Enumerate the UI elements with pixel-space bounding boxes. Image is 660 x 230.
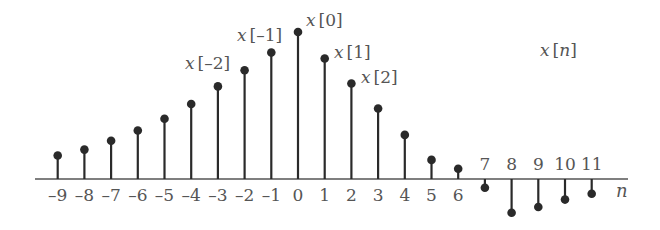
stem-sample	[214, 82, 223, 179]
stem-dot-icon	[53, 151, 62, 160]
tick-label: –4	[182, 185, 201, 205]
tick-label: 10	[554, 154, 576, 174]
stem-dot-icon	[561, 195, 570, 204]
stem-sample	[481, 179, 490, 192]
stem-sample	[320, 54, 329, 179]
sample-annotation: x[2]	[361, 67, 398, 87]
stem-plot: –9–8–7–6–5–4–3–2–101234567891011 x[–2]x[…	[0, 0, 660, 230]
stem-sample	[561, 179, 570, 204]
stem-sample	[107, 136, 116, 179]
tick-label: 0	[293, 185, 304, 205]
stem-sample	[294, 28, 303, 179]
sample-annotation: x[0]	[306, 10, 343, 30]
stem-dot-icon	[320, 54, 329, 63]
stem-sample	[53, 151, 62, 179]
stem-sample	[134, 126, 143, 179]
stem-dot-icon	[534, 203, 543, 212]
stem-dot-icon	[240, 66, 249, 75]
stem-dot-icon	[401, 131, 410, 140]
tick-label: 7	[479, 154, 490, 174]
tick-label: 5	[426, 185, 437, 205]
stem-sample	[187, 100, 196, 179]
stem-sample	[427, 156, 436, 179]
tick-label: –2	[235, 185, 254, 205]
tick-label: 9	[533, 154, 544, 174]
stem-dot-icon	[427, 156, 436, 165]
tick-label: –3	[208, 185, 227, 205]
stem-dot-icon	[454, 164, 463, 173]
stem-sample	[401, 131, 410, 179]
stem-sample	[507, 179, 516, 217]
tick-label: –1	[262, 185, 281, 205]
stem-sample	[587, 179, 596, 198]
tick-label: 2	[346, 185, 357, 205]
tick-label: 1	[319, 185, 330, 205]
stem-sample	[80, 145, 89, 179]
tick-label: –9	[48, 185, 67, 205]
stem-dot-icon	[374, 104, 383, 113]
tick-label: –7	[101, 185, 120, 205]
tick-label: 11	[581, 154, 603, 174]
stem-dot-icon	[107, 136, 116, 145]
tick-label: –8	[75, 185, 94, 205]
sample-annotation: x[–1]	[237, 25, 282, 45]
tick-label: 4	[399, 185, 410, 205]
stem-sample	[160, 114, 169, 179]
stem-dot-icon	[214, 82, 223, 91]
stem-dot-icon	[294, 28, 303, 37]
stem-dot-icon	[507, 209, 516, 218]
stem-dot-icon	[187, 100, 196, 109]
tick-label: 8	[506, 154, 517, 174]
stem-dot-icon	[160, 114, 169, 123]
signal-label: x[n]	[540, 40, 577, 60]
stem-sample	[240, 66, 249, 179]
n-axis-label: n	[616, 180, 628, 201]
tick-label: 3	[373, 185, 384, 205]
tick-label: 6	[453, 185, 464, 205]
stem-sample	[374, 104, 383, 179]
stem-dot-icon	[481, 184, 490, 193]
stem-sample	[454, 164, 463, 179]
stem-sample	[534, 179, 543, 211]
stem-dot-icon	[347, 79, 356, 88]
tick-label: –5	[155, 185, 174, 205]
stem-dot-icon	[80, 145, 89, 154]
sample-annotation: x[–2]	[185, 53, 230, 73]
sample-annotation: x[1]	[334, 42, 371, 62]
stem-sample	[267, 48, 276, 179]
stem-sample	[347, 79, 356, 179]
sample-annotations-group: x[–2]x[–1]x[0]x[1]x[2]	[185, 10, 398, 87]
stem-dot-icon	[587, 189, 596, 198]
stem-dot-icon	[267, 48, 276, 57]
stem-dot-icon	[134, 126, 143, 135]
tick-label: –6	[128, 185, 147, 205]
